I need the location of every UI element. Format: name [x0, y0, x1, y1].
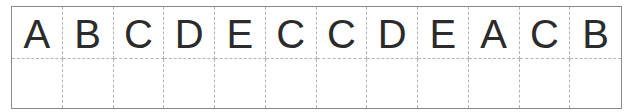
answer-cell-6[interactable]: [266, 59, 317, 108]
letter-cell-7: C: [317, 7, 368, 59]
letter-cell-5: E: [215, 7, 266, 59]
letter-cell-2: B: [63, 7, 114, 59]
letter-cell-1: A: [12, 7, 63, 59]
letter: E: [430, 12, 457, 54]
answer-cell-1[interactable]: [12, 59, 63, 108]
letter: D: [175, 12, 204, 54]
letter-cell-10: A: [469, 7, 520, 59]
letter-cell-9: E: [418, 7, 469, 59]
letter-cell-3: C: [114, 7, 165, 59]
letter: E: [227, 12, 254, 54]
letter: D: [378, 12, 407, 54]
answer-cell-5[interactable]: [215, 59, 266, 108]
answer-cell-8[interactable]: [367, 59, 418, 108]
answer-cell-7[interactable]: [317, 59, 368, 108]
letter: B: [74, 12, 101, 54]
letter: C: [276, 12, 305, 54]
answer-cell-11[interactable]: [520, 59, 571, 108]
letter: B: [582, 12, 609, 54]
answer-cell-2[interactable]: [63, 59, 114, 108]
letter: A: [24, 12, 51, 54]
answer-cell-4[interactable]: [164, 59, 215, 108]
letter: C: [124, 12, 153, 54]
letter-cell-11: C: [520, 7, 571, 59]
answer-cell-3[interactable]: [114, 59, 165, 108]
letter: C: [530, 12, 559, 54]
letter-cell-12: B: [570, 7, 621, 59]
answer-cell-10[interactable]: [469, 59, 520, 108]
letter-grid: A B C D E C C D E A C B: [11, 6, 622, 109]
letter-cell-4: D: [164, 7, 215, 59]
answer-cell-9[interactable]: [418, 59, 469, 108]
letter: C: [327, 12, 356, 54]
letter-cell-8: D: [367, 7, 418, 59]
answer-cell-12[interactable]: [570, 59, 621, 108]
letter-cell-6: C: [266, 7, 317, 59]
letter: A: [480, 12, 507, 54]
